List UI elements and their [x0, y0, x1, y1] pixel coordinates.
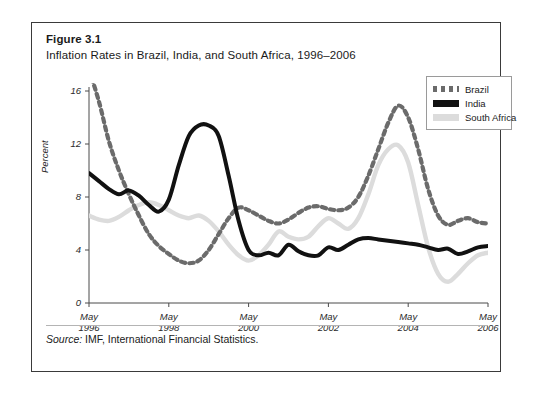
- source-text: IMF, International Financial Statistics.: [82, 333, 258, 345]
- legend-item-india: India: [433, 96, 505, 110]
- source-word: Source:: [46, 333, 82, 345]
- legend-swatch-brazil-icon: [433, 86, 459, 92]
- legend-label-south-africa: South Africa: [465, 112, 516, 123]
- y-tick-8: 8: [55, 191, 81, 202]
- x-tick-2006: May2006: [466, 311, 510, 333]
- legend-swatch-south-africa-icon: [433, 114, 459, 121]
- y-tick-4: 4: [55, 244, 81, 255]
- figure-container: Figure 3.1 Inflation Rates in Brazil, In…: [31, 22, 501, 372]
- legend-swatch-india-icon: [433, 100, 459, 107]
- y-tick-0: 0: [55, 297, 81, 308]
- series-line-south-africa: [89, 145, 488, 282]
- x-tick-2000: May2000: [227, 311, 271, 333]
- source-note: Source: IMF, International Financial Sta…: [46, 333, 258, 345]
- y-tick-16: 16: [55, 85, 81, 96]
- legend-item-brazil: Brazil: [433, 82, 505, 96]
- legend-label-india: India: [465, 98, 486, 109]
- y-tick-12: 12: [55, 138, 81, 149]
- x-tick-1996: May1996: [67, 311, 111, 333]
- x-tick-2002: May2002: [306, 311, 350, 333]
- x-tick-2004: May2004: [386, 311, 430, 333]
- chart-legend: Brazil India South Africa: [426, 76, 512, 130]
- legend-label-brazil: Brazil: [465, 84, 489, 95]
- legend-item-south-africa: South Africa: [433, 110, 505, 124]
- source-divider: [46, 325, 488, 326]
- x-tick-1998: May1998: [147, 311, 191, 333]
